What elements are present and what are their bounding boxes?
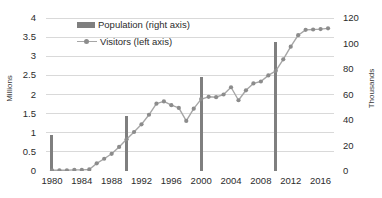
population-bar — [50, 135, 53, 171]
population-bar — [200, 77, 203, 171]
visitors-marker — [259, 79, 263, 83]
population-bar — [125, 116, 128, 171]
visitors-marker — [266, 73, 270, 77]
visitors-marker — [139, 122, 143, 126]
visitors-marker — [124, 137, 128, 141]
visitors-marker — [117, 145, 121, 149]
visitors-marker — [326, 26, 330, 30]
x-axis-tick-label: 1996 — [161, 175, 182, 186]
visitors-marker — [229, 85, 233, 89]
legend-item-visitors: Visitors (left axis) — [77, 33, 190, 50]
visitors-marker — [318, 27, 322, 31]
visitors-marker — [207, 95, 211, 99]
visitors-marker — [192, 107, 196, 111]
population-bar — [274, 42, 277, 171]
line-marker-swatch-icon — [77, 38, 97, 46]
x-axis-tick-label: 2012 — [280, 175, 301, 186]
x-axis-tick-label: 2004 — [220, 175, 241, 186]
visitors-marker — [251, 81, 255, 85]
swatch-marker-dot — [84, 39, 89, 44]
visitors-marker — [95, 161, 99, 165]
x-axis-tick-label: 1992 — [131, 175, 152, 186]
visitors-marker — [162, 99, 166, 103]
visitors-marker — [102, 157, 106, 161]
x-axis-tick-label: 1988 — [101, 175, 122, 186]
visitors-marker — [169, 103, 173, 107]
visitors-marker — [57, 168, 61, 171]
visitors-marker — [72, 168, 76, 171]
visitors-marker — [110, 152, 114, 156]
visitors-marker — [281, 57, 285, 61]
visitors-marker — [274, 69, 278, 73]
chart-container: Millions Thousands 00.511.522.533.54 020… — [0, 0, 382, 198]
visitors-marker — [289, 45, 293, 49]
visitors-marker — [214, 95, 218, 99]
x-axis-tick-label: 2008 — [250, 175, 271, 186]
bar-swatch-icon — [77, 22, 95, 28]
visitors-marker — [132, 130, 136, 134]
visitors-marker — [304, 28, 308, 32]
visitors-marker — [296, 33, 300, 37]
chart-legend: Population (right axis) Visitors (left a… — [77, 16, 190, 50]
x-axis-tick-label: 1984 — [71, 175, 92, 186]
legend-item-population: Population (right axis) — [77, 16, 190, 33]
visitors-marker — [65, 168, 69, 171]
x-axis-tick-label: 2000 — [191, 175, 212, 186]
x-axis-tick-label: 1980 — [41, 175, 62, 186]
x-axis-tick-label: 2016 — [310, 175, 331, 186]
visitors-marker — [80, 168, 84, 171]
visitors-marker — [199, 97, 203, 101]
legend-label-visitors: Visitors (left axis) — [100, 37, 172, 47]
visitors-marker — [236, 98, 240, 102]
legend-label-population: Population (right axis) — [98, 20, 190, 30]
visitors-marker — [221, 92, 225, 96]
visitors-marker — [147, 113, 151, 117]
visitors-marker — [154, 102, 158, 106]
visitors-marker — [311, 27, 315, 31]
visitors-marker — [177, 106, 181, 110]
visitors-marker — [244, 88, 248, 92]
visitors-marker — [184, 119, 188, 123]
